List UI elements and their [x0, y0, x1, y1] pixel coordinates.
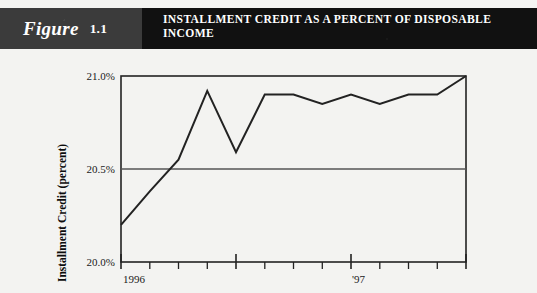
figure-number-label: 1.1: [90, 21, 107, 37]
x-tick-label-97: '97: [352, 273, 365, 285]
figure-title-box: INSTALLMENT CREDIT AS A PERCENT OF DISPO…: [142, 8, 537, 49]
data-series-line: [121, 76, 466, 225]
y-tick-label-21: 21.0%: [87, 70, 115, 82]
x-tick-label-1996: 1996: [123, 273, 146, 285]
page-title: INSTALLMENT CREDIT AS A PERCENT OF DISPO…: [163, 13, 527, 40]
x-axis-minor-ticks: [150, 262, 438, 269]
line-chart: Installment Credit (percent) 21.0% 20.5%…: [0, 49, 537, 293]
chart-area: Installment Credit (percent) 21.0% 20.5%…: [0, 49, 537, 293]
figure-container: Figure 1.1 INSTALLMENT CREDIT AS A PERCE…: [0, 0, 537, 293]
y-axis-title: Installment Credit (percent): [56, 144, 69, 282]
figure-header-band: Figure 1.1 INSTALLMENT CREDIT AS A PERCE…: [0, 8, 537, 49]
y-tick-label-20: 20.0%: [87, 256, 115, 268]
figure-label-box: Figure 1.1: [0, 8, 142, 49]
figure-word-label: Figure: [23, 18, 79, 40]
y-tick-label-20-5: 20.5%: [87, 163, 115, 175]
